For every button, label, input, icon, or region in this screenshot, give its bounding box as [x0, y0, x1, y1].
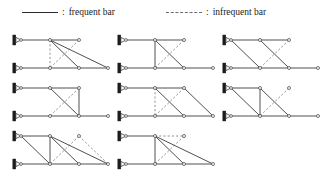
truss-node — [259, 67, 262, 70]
fixed-support-icon — [223, 111, 233, 121]
legend-label-infrequent-bar: infrequent bar — [213, 8, 267, 18]
truss-node — [288, 39, 291, 42]
truss-bar-frequent — [155, 136, 213, 164]
fixed-support-icon — [118, 63, 128, 73]
truss-node — [288, 115, 291, 118]
truss-node — [49, 39, 52, 42]
dashed-line-swatch-icon — [166, 9, 202, 16]
truss-node — [78, 87, 81, 90]
truss-bar-frequent — [50, 40, 108, 68]
legend: : frequent bar : infrequent bar — [0, 0, 327, 30]
truss-node — [78, 39, 81, 42]
truss-node — [49, 163, 52, 166]
legend-item-frequent-bar: : frequent bar — [22, 8, 115, 18]
truss-diagram-3 — [213, 30, 318, 80]
truss-node — [154, 115, 157, 118]
truss-node — [154, 67, 157, 70]
legend-item-infrequent-bar: : infrequent bar — [166, 8, 266, 18]
truss-node — [183, 135, 186, 138]
truss-diagram-2 — [108, 30, 213, 80]
truss-bar-frequent — [231, 88, 260, 116]
fixed-support-icon — [118, 35, 128, 45]
truss-node — [212, 163, 215, 166]
truss-diagram-7 — [3, 126, 108, 176]
truss-bar-infrequent — [79, 136, 108, 164]
truss-node — [154, 135, 157, 138]
fixed-support-icon — [118, 159, 128, 169]
truss-node — [78, 67, 81, 70]
truss-diagram-6 — [213, 78, 318, 128]
truss-node — [288, 87, 291, 90]
truss-bar-frequent — [184, 88, 213, 116]
truss-bar-frequent — [50, 136, 108, 164]
truss-node — [78, 135, 81, 138]
truss-node — [49, 67, 52, 70]
truss-node — [183, 87, 186, 90]
truss-diagram-5 — [108, 78, 213, 128]
fixed-support-icon — [223, 63, 233, 73]
fixed-support-icon — [13, 111, 23, 121]
truss-node — [49, 135, 52, 138]
fixed-support-icon — [118, 111, 128, 121]
truss-node — [317, 67, 320, 70]
legend-separator: : — [62, 8, 65, 18]
truss-diagram-4 — [3, 78, 108, 128]
fixed-support-icon — [13, 159, 23, 169]
legend-separator: : — [206, 8, 209, 18]
solid-line-swatch-icon — [22, 9, 58, 16]
truss-diagram-8 — [108, 126, 213, 176]
truss-node — [183, 115, 186, 118]
truss-diagram-1 — [3, 30, 108, 80]
truss-node — [259, 39, 262, 42]
truss-bar-frequent — [21, 136, 50, 164]
truss-diagram-grid — [0, 30, 327, 185]
truss-node — [78, 115, 81, 118]
truss-bar-frequent — [231, 40, 260, 68]
truss-node — [49, 115, 52, 118]
truss-node — [183, 39, 186, 42]
truss-node — [154, 163, 157, 166]
fixed-support-icon — [13, 131, 23, 141]
truss-node — [183, 163, 186, 166]
fixed-support-icon — [13, 35, 23, 45]
truss-node — [288, 67, 291, 70]
truss-node — [259, 87, 262, 90]
fixed-support-icon — [223, 35, 233, 45]
fixed-support-icon — [223, 83, 233, 93]
truss-node — [154, 87, 157, 90]
truss-node — [78, 163, 81, 166]
fixed-support-icon — [118, 83, 128, 93]
truss-node — [49, 87, 52, 90]
truss-node — [317, 115, 320, 118]
truss-node — [183, 67, 186, 70]
fixed-support-icon — [13, 63, 23, 73]
truss-node — [259, 115, 262, 118]
legend-label-frequent-bar: frequent bar — [69, 8, 115, 18]
truss-node — [154, 39, 157, 42]
fixed-support-icon — [13, 83, 23, 93]
fixed-support-icon — [118, 131, 128, 141]
